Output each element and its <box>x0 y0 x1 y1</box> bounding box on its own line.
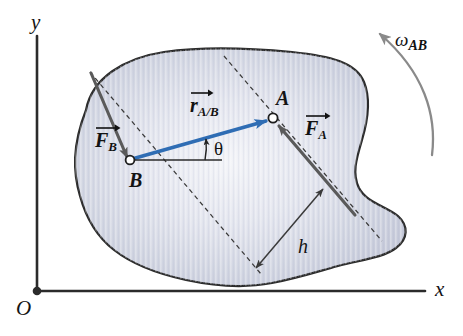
rigid-body-force-figure: y x O A B θ h FB FA rA/B ωAB <box>0 0 463 336</box>
origin-label: O <box>16 298 31 319</box>
angular-velocity-label: ωAB <box>395 30 427 53</box>
omega-symbol: ω <box>395 29 408 50</box>
x-axis-label: x <box>435 279 444 300</box>
figure-canvas <box>0 0 463 336</box>
vector-label-FB-text: FB <box>95 129 117 151</box>
vector-label-FA: FA <box>305 118 327 141</box>
vector-subscript-AB: A/B <box>198 104 219 119</box>
point-label-A: A <box>276 88 289 108</box>
vector-symbol-F: F <box>305 117 318 139</box>
origin-dot-icon <box>33 287 42 296</box>
point-label-B: B <box>129 170 142 190</box>
dimension-label-h: h <box>298 236 308 256</box>
y-axis-label: y <box>31 12 40 33</box>
vector-label-FA-text: FA <box>305 117 327 139</box>
point-marker-A <box>268 113 277 122</box>
vector-label-rAB: rA/B <box>190 95 219 118</box>
vector-subscript-A: A <box>318 127 327 142</box>
vector-label-FB: FB <box>95 130 117 153</box>
rigid-body-shape <box>75 48 406 286</box>
vector-subscript-B: B <box>108 139 117 154</box>
point-marker-B <box>126 156 135 165</box>
vector-symbol-r: r <box>190 94 198 116</box>
angle-label-theta: θ <box>214 139 223 158</box>
vector-symbol-F: F <box>95 129 108 151</box>
omega-subscript: AB <box>408 38 427 53</box>
vector-label-rAB-text: rA/B <box>190 94 219 116</box>
